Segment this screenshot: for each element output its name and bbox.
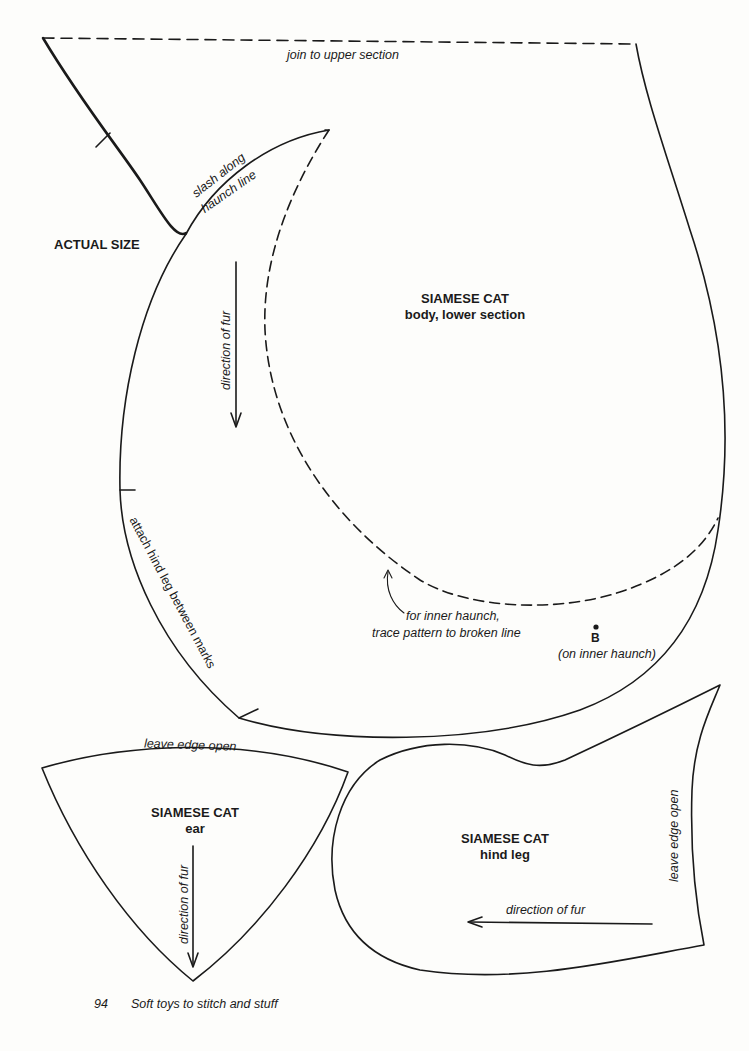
page-number: 94 xyxy=(94,998,108,1011)
notch-mark xyxy=(96,133,110,147)
piece-subtitle: hind leg xyxy=(430,847,580,863)
ear-title: SIAMESE CAT ear xyxy=(120,805,270,837)
piece-title: SIAMESE CAT xyxy=(120,805,270,821)
pattern-artwork xyxy=(0,0,749,1051)
ear-open-edge-label: leave edge open xyxy=(144,737,237,753)
ear-direction-label: direction of fur xyxy=(178,865,191,944)
inner-haunch-dashed-line xyxy=(265,130,718,605)
hind-leg-outline xyxy=(332,685,720,975)
point-b-dot xyxy=(593,624,598,629)
piece-subtitle: ear xyxy=(120,821,270,837)
piece-title: SIAMESE CAT xyxy=(430,831,580,847)
body-lower-title: SIAMESE CAT body, lower section xyxy=(345,291,585,323)
join-label: join to upper section xyxy=(287,49,399,62)
footer-book-title: Soft toys to stitch and stuff xyxy=(131,998,278,1011)
hind-leg-open-edge-label: leave edge open xyxy=(668,790,681,882)
piece-title: SIAMESE CAT xyxy=(345,291,585,307)
hind-leg-piece xyxy=(332,685,720,975)
inner-haunch-label-line2: trace pattern to broken line xyxy=(372,627,521,640)
body-left-edge xyxy=(43,38,186,234)
pointer-arrow xyxy=(387,572,404,613)
ear-outline xyxy=(42,747,348,981)
hind-leg-title: SIAMESE CAT hind leg xyxy=(430,831,580,863)
join-dashed-line xyxy=(43,38,636,44)
notch-mark xyxy=(239,709,258,718)
ear-piece xyxy=(42,747,348,981)
point-b-note: (on inner haunch) xyxy=(558,648,656,661)
actual-size-label: ACTUAL SIZE xyxy=(54,238,140,251)
piece-subtitle: body, lower section xyxy=(345,307,585,323)
inner-haunch-label-line1: for inner haunch, xyxy=(406,610,500,623)
body-direction-label: direction of fur xyxy=(220,311,233,390)
hind-leg-direction-label: direction of fur xyxy=(506,904,585,917)
point-b-label: B xyxy=(591,632,600,644)
